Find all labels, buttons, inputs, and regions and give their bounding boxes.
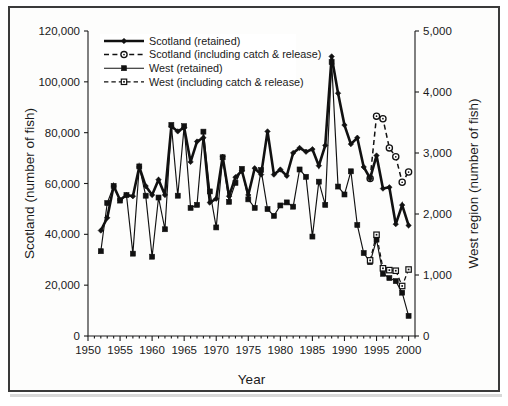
marker-circle-center: [376, 115, 378, 117]
marker-square-filled: [265, 207, 270, 212]
marker-circle-center: [389, 147, 391, 149]
x-tick-label: 2000: [396, 344, 422, 356]
x-tick-label: 1975: [235, 344, 261, 356]
y-axis-right: 01,0002,0003,0004,0005,000: [415, 25, 452, 342]
marker-square-filled: [201, 129, 206, 134]
marker-square-center: [123, 81, 125, 83]
marker-square-filled: [361, 251, 366, 256]
y-tick-label-right: 2,000: [423, 208, 452, 220]
marker-square-filled: [195, 202, 200, 207]
marker-diamond: [387, 185, 392, 190]
marker-square-center: [369, 260, 371, 262]
marker-square-filled: [393, 279, 398, 284]
y-tick-label-right: 4,000: [423, 86, 452, 98]
marker-square-center: [395, 270, 397, 272]
marker-diamond: [374, 153, 379, 158]
marker-square-filled: [130, 251, 135, 256]
legend-item-label: West (including catch & release): [149, 76, 304, 88]
x-tick-label: 1995: [364, 344, 390, 356]
marker-square-filled: [291, 204, 296, 209]
legend-item-label: Scotland (including catch & release): [149, 48, 321, 60]
x-tick-label: 1980: [268, 344, 294, 356]
marker-circle-center: [395, 156, 397, 158]
marker-square-filled: [122, 66, 127, 71]
x-tick-label: 1960: [139, 344, 165, 356]
marker-square-filled: [387, 276, 392, 281]
marker-square-filled: [98, 249, 103, 254]
legend-item-label: Scotland (retained): [149, 35, 240, 47]
marker-square-filled: [323, 202, 328, 207]
x-tick-label: 1965: [171, 344, 197, 356]
marker-square-filled: [304, 174, 309, 179]
marker-square-filled: [406, 313, 411, 318]
y-tick-label-left: 120,000: [38, 25, 80, 37]
marker-square-filled: [355, 222, 360, 227]
marker-square-filled: [297, 167, 302, 172]
y-tick-label-right: 1,000: [423, 269, 452, 281]
series-scotland-including-catch-release: [367, 113, 412, 185]
y-tick-label-right: 5,000: [423, 25, 452, 37]
marker-square-center: [382, 267, 384, 269]
marker-diamond: [380, 186, 385, 191]
marker-square-filled: [188, 205, 193, 210]
marker-square-filled: [175, 193, 180, 198]
y-tick-label-left: 40,000: [45, 228, 80, 240]
marker-square-filled: [252, 205, 257, 210]
marker-square-filled: [162, 227, 167, 232]
series-west-retained: [98, 60, 411, 319]
y-tick-label-left: 100,000: [38, 76, 80, 88]
marker-square-filled: [342, 192, 347, 197]
y-tick-label-left: 60,000: [45, 178, 80, 190]
marker-square-filled: [156, 195, 161, 200]
marker-square-center: [401, 285, 403, 287]
marker-square-center: [389, 269, 391, 271]
x-axis: 1950195519601965197019751980198519901995…: [75, 336, 421, 356]
x-axis-title: Year: [238, 372, 266, 387]
marker-square-filled: [400, 290, 405, 295]
marker-square-filled: [348, 169, 353, 174]
y-axis-title-left: Scotland (number of fish): [22, 108, 37, 259]
marker-square-filled: [150, 254, 155, 259]
legend-item-label: West (retained): [149, 62, 223, 74]
marker-circle-center: [408, 171, 410, 173]
marker-diamond: [329, 54, 334, 59]
marker-square-filled: [284, 200, 289, 205]
marker-circle-center: [382, 118, 384, 120]
legend: Scotland (retained)Scotland (including c…: [100, 34, 321, 90]
y-tick-label-right: 0: [423, 330, 429, 342]
marker-circle-center: [123, 54, 125, 56]
chart-container: 020,00040,00060,00080,000100,000120,0000…: [0, 0, 508, 406]
marker-square-filled: [316, 179, 321, 184]
marker-square-filled: [227, 199, 232, 204]
y-tick-label-left: 0: [74, 330, 80, 342]
marker-diamond: [130, 194, 135, 199]
marker-circle-center: [401, 181, 403, 183]
marker-diamond: [265, 129, 270, 134]
marker-square-filled: [380, 271, 385, 276]
marker-square-filled: [336, 184, 341, 189]
marker-square-filled: [271, 213, 276, 218]
x-tick-label: 1985: [300, 344, 326, 356]
x-tick-label: 1955: [107, 344, 133, 356]
x-tick-label: 1990: [332, 344, 358, 356]
marker-square-filled: [143, 193, 148, 198]
x-tick-label: 1950: [75, 344, 101, 356]
marker-diamond: [335, 91, 340, 96]
y-tick-label-right: 3,000: [423, 147, 452, 159]
y-tick-label-left: 20,000: [45, 279, 80, 291]
marker-square-filled: [310, 234, 315, 239]
y-axis-left: 020,00040,00060,00080,000100,000120,000: [38, 25, 88, 342]
x-tick-label: 1970: [203, 344, 229, 356]
marker-square-filled: [278, 203, 283, 208]
y-tick-label-left: 80,000: [45, 127, 80, 139]
line-chart: 020,00040,00060,00080,000100,000120,0000…: [0, 0, 508, 406]
marker-square-center: [408, 269, 410, 271]
marker-square-filled: [214, 225, 219, 230]
marker-square-center: [376, 234, 378, 236]
y-axis-title-right: West region (number of fish): [466, 98, 481, 268]
